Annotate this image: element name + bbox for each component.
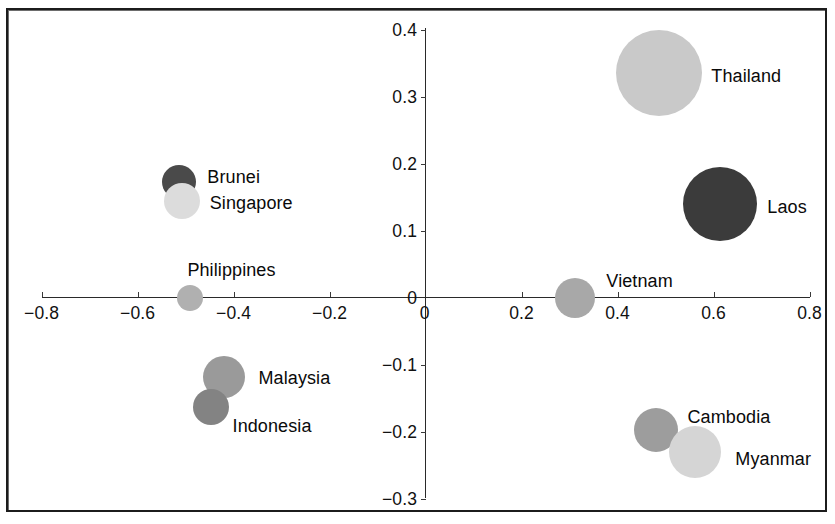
label-singapore: Singapore [210,193,293,214]
y-tick-mark [421,231,426,232]
x-tick-label: 0.2 [509,303,534,324]
y-tick-mark [421,499,426,500]
chart-page: −0.8−0.6−0.4−0.200.20.40.60.8 0.40.30.20… [0,0,835,524]
x-tick-label: −0.4 [216,303,251,324]
y-tick-label-wrap: 0.1 [345,231,417,252]
scatter-plot-area: −0.8−0.6−0.4−0.200.20.40.60.8 0.40.30.20… [0,0,835,524]
y-tick-label-wrap: −0.2 [345,432,417,453]
y-tick-label-wrap: 0 [345,298,417,319]
label-philippines: Philippines [187,260,275,281]
y-axis-line [425,28,426,498]
x-tick-label: −0.6 [120,303,155,324]
label-brunei: Brunei [207,167,260,188]
x-tick-label: 0.4 [605,303,630,324]
x-tick-mark [714,292,715,297]
label-myanmar: Myanmar [735,449,811,470]
y-tick-label: −0.1 [345,354,417,375]
label-thailand: Thailand [711,66,781,87]
y-tick-label: 0.4 [345,19,417,40]
x-tick-label: 0.6 [701,303,726,324]
y-tick-label: 0 [345,287,417,308]
x-tick-mark [138,292,139,297]
y-tick-label: 0.1 [345,220,417,241]
bubble-thailand[interactable] [616,30,702,116]
bubble-singapore[interactable] [164,183,200,219]
label-cambodia: Cambodia [688,407,771,428]
bubble-philippines[interactable] [177,285,203,311]
x-tick-label: 0.8 [797,303,822,324]
label-indonesia: Indonesia [233,416,312,437]
x-tick-label: −0.8 [24,303,59,324]
label-laos: Laos [767,197,806,218]
y-tick-label-wrap: −0.1 [345,365,417,386]
bubble-indonesia[interactable] [193,389,229,425]
label-vietnam: Vietnam [606,271,672,292]
bubble-vietnam[interactable] [555,278,595,318]
y-tick-label: −0.2 [345,421,417,442]
y-tick-mark [421,365,426,366]
bubble-laos[interactable] [683,167,757,241]
x-tick-mark [618,292,619,297]
y-tick-mark [421,432,426,433]
label-malaysia: Malaysia [258,368,330,389]
y-tick-mark [421,164,426,165]
y-tick-label: 0.2 [345,153,417,174]
x-tick-mark [42,292,43,297]
x-tick-label: −0.2 [312,303,347,324]
y-tick-label-wrap: −0.3 [345,499,417,520]
x-tick-mark [234,292,235,297]
bubble-myanmar[interactable] [669,426,721,478]
y-tick-label-wrap: 0.4 [345,30,417,51]
x-tick-mark [522,292,523,297]
x-tick-mark [810,292,811,297]
x-tick-label: 0 [420,303,430,324]
y-tick-mark [421,97,426,98]
y-tick-label: 0.3 [345,86,417,107]
y-tick-label: −0.3 [345,488,417,509]
y-tick-label-wrap: 0.2 [345,164,417,185]
y-tick-label-wrap: 0.3 [345,97,417,118]
x-tick-mark [330,292,331,297]
y-tick-mark [421,30,426,31]
